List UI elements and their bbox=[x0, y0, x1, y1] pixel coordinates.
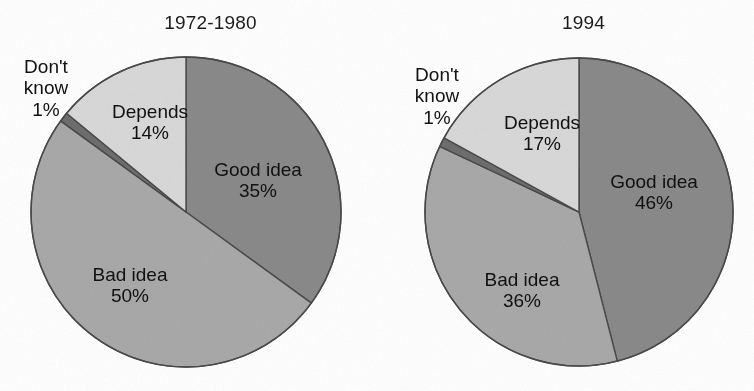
slice-label-value: 36% bbox=[484, 290, 559, 311]
slice-label-value: 17% bbox=[504, 133, 580, 154]
slice-label-name-line2: know bbox=[415, 85, 459, 106]
slice-label-good-idea-right: Good idea 46% bbox=[610, 171, 698, 214]
slice-label-name: Good idea bbox=[610, 171, 698, 192]
chart-panel-1994: 1994 Good idea 46% bbox=[377, 0, 754, 391]
slice-label-good-idea-left: Good idea 35% bbox=[214, 159, 302, 202]
slice-label-name: Bad idea bbox=[484, 269, 559, 290]
slice-label-name-line2: know bbox=[24, 77, 68, 98]
pie-chart-figure: 1972-1980 Good idea bbox=[0, 0, 754, 391]
slice-label-depends-left: Depends 14% bbox=[112, 101, 188, 144]
slice-label-depends-right: Depends 17% bbox=[504, 112, 580, 155]
slice-label-name: Depends bbox=[504, 112, 580, 133]
slice-label-value: 1% bbox=[24, 99, 68, 120]
slice-label-value: 46% bbox=[610, 192, 698, 213]
slice-label-bad-idea-right: Bad idea 36% bbox=[484, 269, 559, 312]
slice-label-dont-know-left: Don't know 1% bbox=[24, 56, 68, 120]
slice-label-name-line1: Don't bbox=[415, 64, 459, 85]
slice-label-name-line1: Don't bbox=[24, 56, 68, 77]
slice-label-dont-know-right: Don't know 1% bbox=[415, 64, 459, 128]
slice-label-value: 1% bbox=[415, 107, 459, 128]
slice-label-value: 50% bbox=[92, 285, 167, 306]
slice-label-value: 14% bbox=[112, 122, 188, 143]
slice-label-name: Depends bbox=[112, 101, 188, 122]
slice-label-name: Bad idea bbox=[92, 264, 167, 285]
slice-label-name: Good idea bbox=[214, 159, 302, 180]
chart-panel-1972-1980: 1972-1980 Good idea bbox=[0, 0, 377, 391]
slice-label-bad-idea-left: Bad idea 50% bbox=[92, 264, 167, 307]
slice-label-value: 35% bbox=[214, 180, 302, 201]
